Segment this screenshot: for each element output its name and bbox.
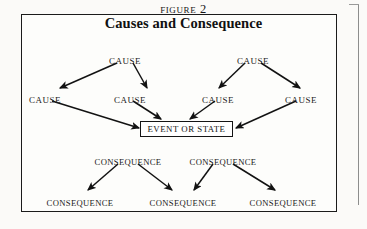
figure-number: FIGURE 2 <box>0 2 367 16</box>
node-event-or-state: EVENT OR STATE <box>140 121 233 137</box>
node-cause-top-1: CAUSE <box>109 57 141 66</box>
node-consequence-bottom-3: CONSEQUENCE <box>250 199 317 208</box>
page-column-rule <box>358 4 359 205</box>
node-consequence-mid-2: CONSEQUENCE <box>190 158 257 167</box>
node-cause-mid-2: CAUSE <box>114 96 146 105</box>
node-cause-top-2: CAUSE <box>237 57 269 66</box>
node-consequence-mid-1: CONSEQUENCE <box>95 158 162 167</box>
figure-heading: FIGURE 2 Causes and Consequence <box>0 2 367 31</box>
node-cause-mid-4: CAUSE <box>285 96 317 105</box>
node-consequence-bottom-2: CONSEQUENCE <box>150 199 217 208</box>
node-cause-mid-3: CAUSE <box>202 96 234 105</box>
scanned-page-background: FIGURE 2 Causes and Consequence <box>0 0 367 229</box>
figure-title: Causes and Consequence <box>0 15 367 31</box>
node-cause-mid-1: CAUSE <box>29 96 61 105</box>
figure-frame <box>21 14 337 212</box>
node-consequence-bottom-1: CONSEQUENCE <box>47 199 114 208</box>
